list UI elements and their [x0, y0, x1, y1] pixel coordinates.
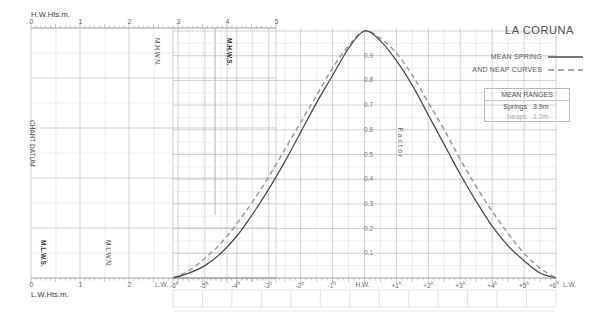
time-label-plus2: +2h	[423, 281, 433, 289]
time-label-plus6: +6h	[549, 281, 559, 289]
bottom-entry-table	[173, 290, 556, 311]
neaps-value: 1.2m	[533, 113, 557, 120]
factor-tick-0.8: 0.8	[364, 76, 373, 83]
page-title: LA CORUNA	[505, 24, 574, 36]
factor-tick-0.5: 0.5	[364, 151, 373, 158]
tidal-curve-diagram: LA CORUNA MEAN SPRING AND NEAP CURVES ME…	[0, 0, 602, 320]
top-tick-2: 2	[128, 18, 132, 25]
time-label-minus4: -4h	[232, 281, 240, 289]
top-axis-title: H.W.Hts.m.	[31, 10, 70, 19]
factor-tick-0.6: 0.6	[364, 126, 373, 133]
factor-tick-0.2: 0.2	[364, 225, 373, 232]
top-tick-0: 0	[30, 18, 34, 25]
factor-axis-title: Factor	[397, 128, 404, 160]
springs-value: 3.9m	[533, 103, 557, 110]
time-label-hw: H.W.	[356, 281, 370, 288]
bottom-left-tick-1: 1	[79, 281, 83, 288]
mhws-label: M.H.W.S.	[226, 38, 233, 65]
factor-tick-0.4: 0.4	[364, 175, 373, 182]
top-ruler-ticks	[31, 23, 276, 29]
mean-ranges-box: MEAN RANGES Springs 3.9m Neaps 1.2m	[484, 88, 570, 122]
time-label-plus1: +1h	[391, 281, 401, 289]
mlws-label: M.L.W.S.	[40, 240, 47, 267]
top-tick-1: 1	[79, 18, 83, 25]
mhwn-label: M.H.W.N.	[154, 38, 161, 66]
legend-label-line1: MEAN SPRING	[452, 53, 542, 60]
time-label-plus4: +4h	[487, 281, 497, 289]
legend-label-line2: AND NEAP CURVES	[434, 66, 542, 73]
neaps-label: Neaps	[497, 113, 527, 120]
mean-ranges-header: MEAN RANGES	[485, 89, 569, 101]
time-label-minus2: -2h	[296, 281, 304, 289]
top-tick-5: 5	[275, 18, 279, 25]
top-tick-3: 3	[177, 18, 181, 25]
time-label-minus5: -5h	[200, 281, 208, 289]
mean-ranges-row-neaps: Neaps 1.2m	[485, 111, 569, 121]
time-label-lw-left: L.W.	[155, 281, 168, 288]
factor-tick-0.1: 0.1	[364, 249, 373, 256]
time-label-plus5: +5h	[519, 281, 529, 289]
time-label-minus1: -1h	[328, 281, 336, 289]
bottom-left-tick-2: 2	[128, 281, 132, 288]
chart-datum-label: CHART DATUM	[29, 120, 36, 167]
factor-tick-0.7: 0.7	[364, 101, 373, 108]
time-label-lw-right: L.W.	[563, 281, 576, 288]
tide-chart-svg	[0, 0, 602, 320]
top-tick-4: 4	[226, 18, 230, 25]
time-label-minus3: -3h	[264, 281, 272, 289]
bottom-left-axis-title: L.W.Hts.m.	[31, 290, 69, 299]
time-label-minus6: -6h	[170, 281, 178, 289]
mlwn-label: M.L.W.N.	[105, 240, 112, 267]
factor-tick-0.9: 0.9	[364, 52, 373, 59]
bottom-left-tick-0: 0	[30, 281, 34, 288]
springs-label: Springs	[497, 103, 527, 110]
time-label-plus3: +3h	[455, 281, 465, 289]
mean-ranges-row-springs: Springs 3.9m	[485, 101, 569, 111]
factor-tick-0.3: 0.3	[364, 200, 373, 207]
